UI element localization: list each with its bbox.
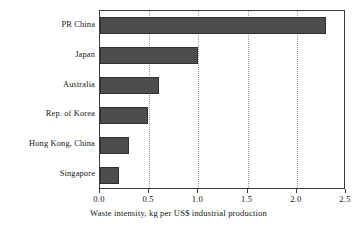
x-tick-2 [197, 189, 198, 193]
category-label-1: Japan [0, 50, 95, 60]
plot-area [99, 10, 345, 189]
gridline-2 [248, 11, 249, 188]
bar-chart: PR China Japan Australia Rep. of Korea H… [0, 0, 357, 228]
x-tick-label-4: 2.0 [279, 194, 313, 204]
bar-5 [100, 167, 119, 184]
gridline-1 [198, 11, 199, 188]
category-label-5: Singapore [0, 169, 95, 179]
x-tick-label-3: 1.5 [230, 194, 264, 204]
x-tick-label-5: 2.5 [328, 194, 357, 204]
x-tick-3 [247, 189, 248, 193]
x-tick-5 [345, 189, 346, 193]
category-label-3: Rep. of Korea [0, 109, 95, 119]
bar-1 [100, 47, 198, 64]
bar-4 [100, 137, 129, 154]
x-tick-0 [99, 189, 100, 193]
category-label-2: Australia [0, 80, 95, 90]
category-label-4: Hong Kong, China [0, 139, 95, 149]
x-tick-1 [148, 189, 149, 193]
x-axis-title: Waste intensity, kg per US$ industrial p… [0, 208, 357, 219]
x-tick-label-2: 1.0 [180, 194, 214, 204]
bar-0 [100, 17, 326, 34]
x-tick-4 [296, 189, 297, 193]
gridline-3 [297, 11, 298, 188]
x-tick-label-0: 0.0 [82, 194, 116, 204]
x-tick-label-1: 0.5 [131, 194, 165, 204]
gridline-0 [149, 11, 150, 188]
bar-3 [100, 107, 148, 124]
category-label-0: PR China [0, 20, 95, 30]
y-axis-category-labels: PR China Japan Australia Rep. of Korea H… [0, 10, 95, 189]
bar-2 [100, 77, 159, 94]
